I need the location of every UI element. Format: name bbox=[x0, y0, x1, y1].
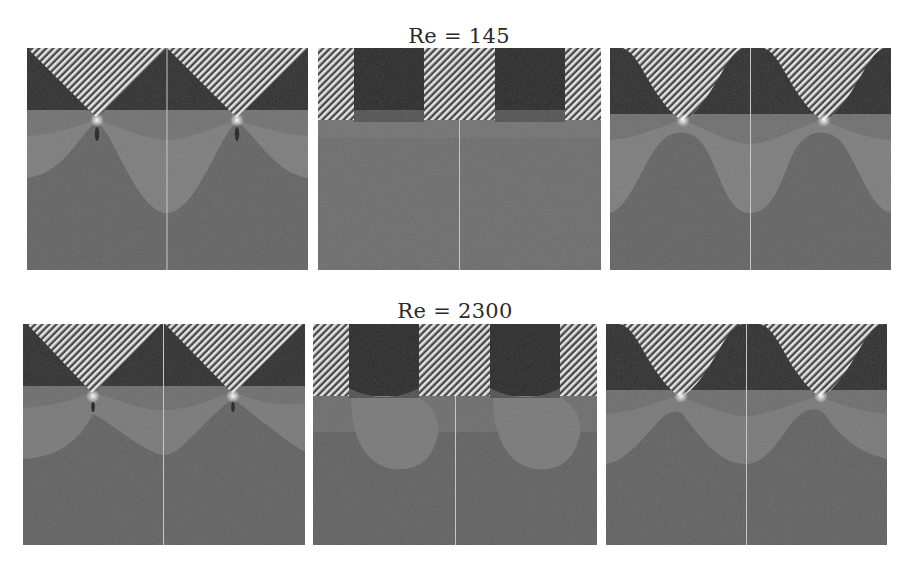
panel-triangular-re2300 bbox=[23, 324, 305, 545]
panel-sinusoidal-re2300 bbox=[606, 324, 887, 545]
panel-square-re145 bbox=[318, 48, 601, 270]
panel-square-re2300 bbox=[313, 324, 597, 545]
panel-triangular-re145 bbox=[27, 48, 308, 270]
panel-sinusoidal-re145 bbox=[610, 48, 891, 270]
title-re-145: Re = 145 bbox=[408, 26, 510, 47]
title-re-2300: Re = 2300 bbox=[397, 301, 512, 322]
